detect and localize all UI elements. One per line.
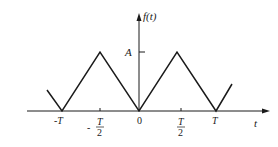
tick-labels: -T - T 2 0 T 2 T (54, 115, 219, 138)
tick-label-neg-half-T: - T 2 (87, 116, 104, 138)
svg-text:T: T (97, 116, 104, 127)
tick-label-zero: 0 (137, 115, 142, 126)
amplitude-label: A (124, 46, 132, 58)
y-axis-label: f(t) (143, 10, 157, 23)
svg-text:2: 2 (178, 127, 183, 138)
y-axis: f(t) (137, 10, 157, 111)
svg-text:2: 2 (97, 127, 102, 138)
amplitude-marker: A (124, 46, 145, 58)
svg-text:T: T (178, 116, 185, 127)
triangle-wave-diagram: t f(t) A -T - T 2 0 T 2 T (0, 0, 278, 147)
x-axis: t (27, 109, 270, 130)
svg-text:-: - (87, 122, 90, 133)
tick-label-half-T: T 2 (177, 116, 185, 138)
y-axis-arrow-icon (137, 13, 142, 21)
x-axis-label: t (254, 117, 258, 129)
tick-label-T: T (212, 115, 219, 126)
tick-label-neg-T: -T (54, 115, 64, 126)
x-axis-arrow-icon (262, 109, 270, 114)
